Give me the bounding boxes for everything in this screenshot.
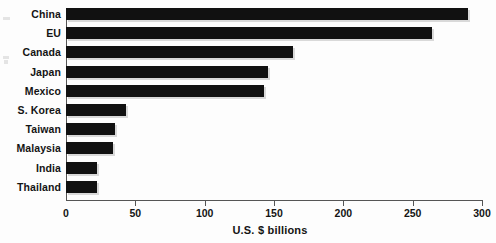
bar xyxy=(66,104,126,116)
bar-row: Canada xyxy=(66,46,482,58)
x-axis-tick xyxy=(413,201,414,206)
bar-row: India xyxy=(66,162,482,174)
bar xyxy=(66,142,113,154)
bar xyxy=(66,46,293,58)
x-axis-tick xyxy=(482,201,483,206)
category-label: India xyxy=(36,162,61,174)
category-label: China xyxy=(31,8,61,20)
category-label: Malaysia xyxy=(16,142,61,154)
bar-row: Mexico xyxy=(66,85,482,97)
bar xyxy=(66,66,268,78)
bar xyxy=(66,85,264,97)
category-label: Thailand xyxy=(17,181,61,193)
category-label: Canada xyxy=(22,46,61,58)
x-axis-title: U.S. $ billions xyxy=(0,224,496,236)
bar-row: S. Korea xyxy=(66,104,482,116)
x-axis-tick-label: 150 xyxy=(265,207,283,219)
bar-chart-figure: ChinaEUCanadaJapanMexicoS. KoreaTaiwanMa… xyxy=(0,0,496,243)
category-label: EU xyxy=(46,27,61,39)
x-axis-tick xyxy=(205,201,206,206)
bar xyxy=(66,181,97,193)
bar-row: Thailand xyxy=(66,181,482,193)
x-axis-tick-label: 100 xyxy=(196,207,214,219)
x-axis-tick-label: 250 xyxy=(404,207,422,219)
scan-artifact-icon xyxy=(3,17,10,20)
bar-row: Japan xyxy=(66,66,482,78)
category-label: Japan xyxy=(30,66,61,78)
x-axis-tick-label: 0 xyxy=(63,207,69,219)
x-axis-tick-label: 300 xyxy=(473,207,491,219)
bar xyxy=(66,27,432,39)
x-axis-tick-label: 200 xyxy=(335,207,353,219)
x-axis-tick-label: 50 xyxy=(129,207,141,219)
bar-row: EU xyxy=(66,27,482,39)
bar xyxy=(66,162,97,174)
scan-artifact-icon xyxy=(3,56,9,59)
bar-row: China xyxy=(66,8,482,20)
x-axis-tick xyxy=(343,201,344,206)
category-label: S. Korea xyxy=(18,104,61,116)
bar-row: Taiwan xyxy=(66,123,482,135)
bar-row: Malaysia xyxy=(66,142,482,154)
category-label: Mexico xyxy=(25,85,61,97)
bar xyxy=(66,123,115,135)
x-axis-tick xyxy=(135,201,136,206)
plot-area: ChinaEUCanadaJapanMexicoS. KoreaTaiwanMa… xyxy=(66,8,482,201)
scan-artifact-icon xyxy=(4,60,8,64)
x-axis-tick xyxy=(274,201,275,206)
category-label: Taiwan xyxy=(26,123,61,135)
bar xyxy=(66,8,468,20)
